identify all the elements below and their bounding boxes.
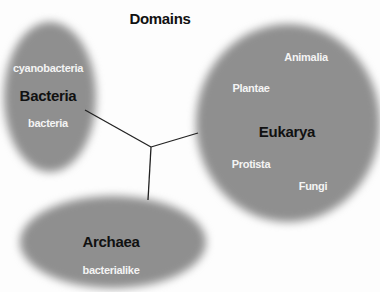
member-fungi: Fungi — [299, 180, 327, 192]
domain-bacteria: Bacteria — [20, 87, 77, 104]
domain-eukarya: Eukarya — [259, 123, 315, 140]
branch-bacteria — [85, 110, 151, 147]
branch-archaea — [148, 147, 151, 200]
member-animalia: Animalia — [284, 51, 327, 63]
member-cyanobacteria: cyanobacteria — [13, 62, 83, 74]
domain-archaea: Archaea — [82, 233, 139, 250]
branch-eukarya — [151, 133, 198, 147]
diagram-title: Domains — [129, 10, 190, 27]
domains-diagram: Domains cyanobacteria Bacteria bacteria … — [0, 0, 380, 292]
tree-lines — [0, 0, 380, 292]
member-protista: Protista — [232, 158, 271, 170]
member-plantae: Plantae — [232, 82, 269, 94]
member-bacterialike: bacterialike — [83, 264, 140, 276]
member-bacteria: bacteria — [28, 117, 68, 129]
